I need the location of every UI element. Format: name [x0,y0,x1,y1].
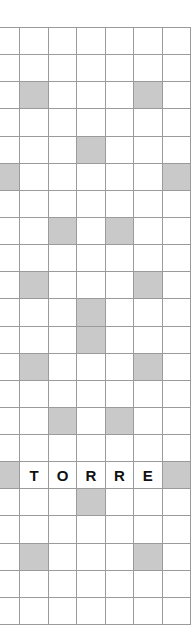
crossword-cell[interactable] [49,435,76,461]
crossword-cell[interactable] [20,28,47,54]
crossword-cell[interactable] [134,516,161,542]
crossword-cell[interactable] [106,272,133,298]
crossword-cell[interactable] [163,516,190,542]
crossword-cell[interactable] [134,435,161,461]
crossword-cell[interactable] [134,327,161,353]
crossword-cell[interactable]: R [77,462,104,488]
crossword-cell[interactable] [20,598,47,624]
crossword-cell[interactable] [0,571,19,597]
crossword-cell[interactable] [163,354,190,380]
crossword-cell[interactable]: O [49,462,76,488]
crossword-cell[interactable] [106,354,133,380]
crossword-cell[interactable]: E [134,462,161,488]
crossword-cell[interactable] [106,191,133,217]
crossword-cell[interactable] [49,381,76,407]
crossword-cell[interactable] [0,489,19,515]
crossword-cell[interactable] [134,164,161,190]
crossword-cell[interactable] [163,544,190,570]
crossword-cell[interactable] [0,516,19,542]
crossword-cell[interactable] [0,435,19,461]
crossword-cell[interactable] [77,354,104,380]
crossword-cell[interactable] [20,571,47,597]
crossword-cell[interactable] [49,489,76,515]
crossword-cell[interactable] [49,109,76,135]
crossword-cell[interactable] [134,381,161,407]
crossword-cell[interactable] [77,381,104,407]
crossword-cell[interactable] [106,28,133,54]
crossword-cell[interactable] [77,272,104,298]
crossword-cell[interactable] [20,245,47,271]
crossword-cell[interactable] [163,435,190,461]
crossword-cell[interactable] [163,28,190,54]
crossword-cell[interactable] [77,191,104,217]
crossword-cell[interactable] [163,82,190,108]
crossword-cell[interactable] [77,28,104,54]
crossword-cell[interactable] [20,435,47,461]
crossword-cell[interactable] [0,327,19,353]
crossword-cell[interactable] [134,299,161,325]
crossword-cell[interactable] [49,272,76,298]
crossword-cell[interactable] [20,137,47,163]
crossword-cell[interactable] [106,109,133,135]
crossword-cell[interactable] [0,272,19,298]
crossword-cell[interactable] [20,327,47,353]
crossword-cell[interactable] [0,299,19,325]
crossword-cell[interactable] [0,544,19,570]
crossword-cell[interactable] [0,109,19,135]
crossword-cell[interactable] [163,218,190,244]
crossword-cell[interactable] [134,218,161,244]
crossword-cell[interactable] [106,55,133,81]
crossword-cell[interactable] [49,164,76,190]
crossword-cell[interactable] [49,327,76,353]
crossword-cell[interactable] [134,137,161,163]
crossword-cell[interactable] [0,598,19,624]
crossword-cell[interactable] [0,218,19,244]
crossword-cell[interactable] [106,381,133,407]
crossword-cell[interactable] [134,571,161,597]
crossword-cell[interactable] [77,55,104,81]
crossword-cell[interactable] [20,408,47,434]
crossword-cell[interactable] [106,489,133,515]
crossword-cell[interactable] [134,408,161,434]
crossword-cell[interactable] [163,489,190,515]
crossword-cell[interactable] [49,354,76,380]
crossword-cell[interactable] [163,109,190,135]
crossword-cell[interactable] [106,516,133,542]
crossword-cell[interactable] [106,245,133,271]
crossword-cell[interactable] [77,435,104,461]
crossword-cell[interactable] [134,55,161,81]
crossword-cell[interactable] [20,299,47,325]
crossword-cell[interactable] [20,489,47,515]
crossword-cell[interactable] [49,544,76,570]
crossword-cell[interactable] [77,164,104,190]
crossword-cell[interactable] [163,245,190,271]
crossword-cell[interactable] [134,489,161,515]
crossword-cell[interactable] [77,218,104,244]
crossword-cell[interactable]: R [106,462,133,488]
crossword-cell[interactable] [49,191,76,217]
crossword-cell[interactable] [49,598,76,624]
crossword-cell[interactable] [106,544,133,570]
crossword-cell[interactable] [0,137,19,163]
crossword-cell[interactable] [20,109,47,135]
crossword-cell[interactable] [49,28,76,54]
crossword-cell[interactable] [163,55,190,81]
crossword-cell[interactable] [106,137,133,163]
crossword-cell[interactable] [106,598,133,624]
crossword-cell[interactable] [49,571,76,597]
crossword-cell[interactable] [49,245,76,271]
crossword-cell[interactable] [20,191,47,217]
crossword-cell[interactable] [77,245,104,271]
crossword-cell[interactable] [49,137,76,163]
crossword-cell[interactable] [134,109,161,135]
crossword-cell[interactable] [77,598,104,624]
crossword-cell[interactable] [134,28,161,54]
crossword-cell[interactable] [20,516,47,542]
crossword-cell[interactable] [77,408,104,434]
crossword-cell[interactable] [163,598,190,624]
crossword-cell[interactable]: T [20,462,47,488]
crossword-cell[interactable] [163,327,190,353]
crossword-cell[interactable] [163,571,190,597]
crossword-cell[interactable] [77,82,104,108]
crossword-cell[interactable] [106,327,133,353]
